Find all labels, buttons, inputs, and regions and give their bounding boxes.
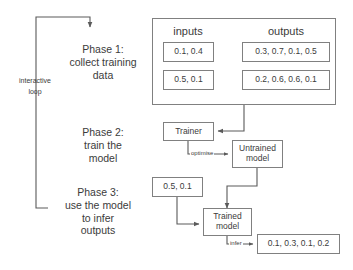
untrained-model-node: Untrained model <box>232 140 283 168</box>
optimise-edge-label: optimise <box>190 150 214 156</box>
phase-1-label: Phase 1: collect training data <box>53 43 153 81</box>
infer-edge-label: infer <box>229 240 243 246</box>
trainer-node: Trainer <box>163 122 214 141</box>
edge-untrained-to-trained-model <box>227 168 257 208</box>
training-output-row-2: 0.2, 0.6, 0.6, 0.1 <box>242 70 330 90</box>
outputs-column-header: outputs <box>252 25 320 37</box>
inputs-column-header: inputs <box>158 25 218 37</box>
diagram-canvas: interactive loop Phase 1: collect traini… <box>0 0 353 270</box>
phase-2-label: Phase 2: train the model <box>53 126 153 164</box>
training-input-row-2: 0.5, 0.1 <box>163 70 214 90</box>
edge-inferenceinput-to-trained-model <box>177 197 199 224</box>
inference-input-node: 0.5, 0.1 <box>152 177 203 197</box>
inference-output-node: 0.1, 0.3, 0.1, 0.2 <box>257 234 340 254</box>
edge-trainingdata-to-trainer <box>218 105 244 131</box>
training-output-row-1: 0.3, 0.7, 0.1, 0.5 <box>242 42 330 62</box>
trained-model-node: Trained model <box>203 208 252 236</box>
phase-3-label: Phase 3: use the model to infer outputs <box>43 186 153 237</box>
training-input-row-1: 0.1, 0.4 <box>163 42 214 62</box>
